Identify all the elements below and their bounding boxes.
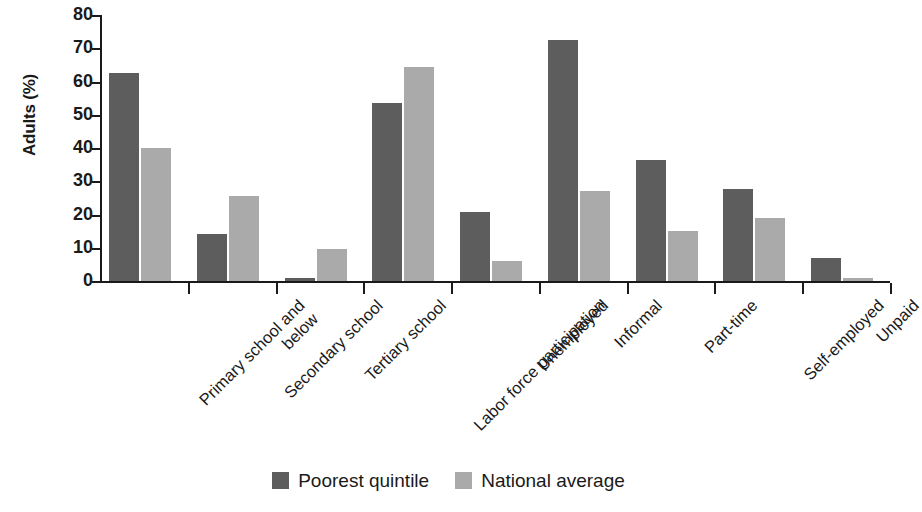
bar-group	[276, 15, 364, 281]
y-axis-label: Adults (%)	[20, 45, 40, 185]
y-tick-label: 70	[73, 37, 93, 57]
bar	[141, 148, 171, 281]
x-category-label: Part-time	[701, 296, 762, 357]
x-category-label: Informal	[611, 296, 667, 352]
bar-group	[363, 15, 451, 281]
y-tick-mark	[92, 15, 100, 17]
plot-area: 01020304050607080	[100, 15, 890, 281]
bar	[843, 278, 873, 281]
x-tick-mark	[539, 283, 541, 294]
bar	[109, 73, 139, 281]
legend-label: Poorest quintile	[298, 470, 429, 491]
light-swatch-icon	[455, 472, 472, 489]
y-tick-label: 80	[73, 4, 93, 24]
bar	[460, 212, 490, 281]
y-tick-label: 30	[73, 170, 93, 190]
x-tick-mark	[188, 283, 190, 294]
y-tick-mark	[92, 281, 100, 283]
x-axis-line	[100, 281, 890, 283]
y-tick-label: 50	[73, 104, 93, 124]
bar	[317, 249, 347, 281]
x-tick-mark	[890, 283, 892, 294]
bar-group	[188, 15, 276, 281]
bar	[197, 234, 227, 281]
bar-group	[802, 15, 890, 281]
bar	[668, 231, 698, 281]
x-tick-mark	[363, 283, 365, 294]
bar	[636, 160, 666, 281]
y-tick-label: 20	[73, 204, 93, 224]
bar	[492, 261, 522, 281]
y-tick-mark	[92, 148, 100, 150]
x-tick-mark	[276, 283, 278, 294]
bar	[404, 67, 434, 281]
y-tick-mark	[92, 82, 100, 84]
x-tick-mark	[451, 283, 453, 294]
bar-group	[100, 15, 188, 281]
bar-group	[627, 15, 715, 281]
x-category-label: Self-employed	[800, 296, 888, 384]
chart-legend: Poorest quintileNational average	[0, 470, 897, 491]
bar	[372, 103, 402, 281]
y-tick-label: 60	[73, 71, 93, 91]
bar	[723, 189, 753, 281]
bar-group	[714, 15, 802, 281]
bar	[285, 278, 315, 281]
bar-group	[451, 15, 539, 281]
y-tick-label: 0	[83, 270, 93, 290]
legend-item[interactable]: National average	[455, 470, 625, 491]
x-tick-mark	[802, 283, 804, 294]
y-tick-mark	[92, 48, 100, 50]
y-tick-mark	[92, 248, 100, 250]
x-category-label: Primary school and below	[196, 296, 323, 423]
y-tick-mark	[92, 215, 100, 217]
bar-group	[539, 15, 627, 281]
legend-item[interactable]: Poorest quintile	[272, 470, 429, 491]
y-tick-label: 40	[73, 137, 93, 157]
y-tick-label: 10	[73, 237, 93, 257]
y-tick-mark	[92, 181, 100, 183]
x-tick-mark	[627, 283, 629, 294]
x-category-label: Unemployed	[533, 296, 612, 375]
bar	[755, 218, 785, 281]
bar	[580, 191, 610, 281]
bar	[229, 196, 259, 281]
y-tick-mark	[92, 115, 100, 117]
bar	[811, 258, 841, 281]
bar	[548, 40, 578, 281]
dark-swatch-icon	[272, 472, 289, 489]
x-tick-mark	[714, 283, 716, 294]
legend-label: National average	[481, 470, 625, 491]
